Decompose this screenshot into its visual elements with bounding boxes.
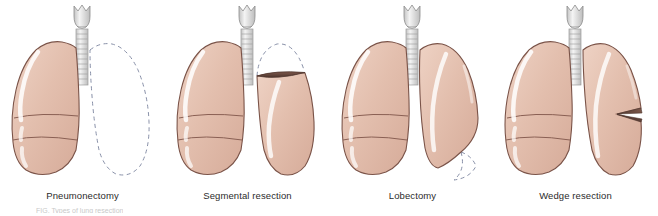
panel-label-pneumonectomy: Pneumonectomy: [0, 190, 165, 201]
right-lung-segmental-resected: [257, 72, 314, 175]
panel-lobectomy: Lobectomy: [330, 0, 495, 216]
panel-pneumonectomy: Pneumonectomy: [0, 0, 165, 216]
larynx-icon: [567, 5, 583, 27]
removed-apical-segment-outline: [257, 44, 304, 76]
larynx-icon: [74, 5, 90, 27]
left-lung-intact: [12, 42, 79, 175]
left-lung-intact: [342, 42, 409, 175]
left-lung-intact: [505, 42, 572, 175]
wedge-resection-illustration: [493, 0, 658, 190]
panel-label-lobectomy: Lobectomy: [330, 190, 495, 201]
panel-segmental-resection: Segmental resection: [165, 0, 330, 216]
removed-lower-lobe-outline: [454, 152, 476, 180]
larynx-icon: [239, 5, 255, 27]
segmental-resection-illustration: [165, 0, 330, 190]
left-lung-intact: [177, 42, 244, 175]
larynx-icon: [404, 5, 420, 27]
figure-caption: FIG. Types of lung resection: [36, 207, 123, 213]
panel-wedge-resection: Wedge resection: [493, 0, 658, 216]
right-lung-wedge-resected: [583, 44, 642, 175]
panel-label-segmental-resection: Segmental resection: [165, 190, 330, 201]
lung-resection-figure: Pneumonectomy: [0, 0, 658, 216]
removed-right-lung-outline: [90, 44, 149, 175]
pneumonectomy-illustration: [0, 0, 165, 190]
right-lung-lobectomy: [420, 44, 479, 168]
lobectomy-illustration: [330, 0, 495, 190]
panel-label-wedge-resection: Wedge resection: [493, 190, 658, 201]
